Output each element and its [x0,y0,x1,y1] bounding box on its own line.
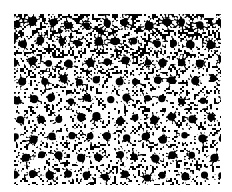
cell-texture [14,14,221,185]
micrograph-image [14,14,221,185]
